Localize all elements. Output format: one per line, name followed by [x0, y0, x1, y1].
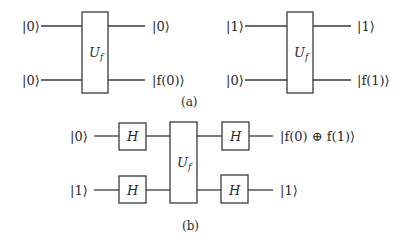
input-ket-bottom: |0⟩ — [22, 73, 40, 88]
circuit-a-right: |1⟩ |0⟩ Uf |1⟩ |f(1)⟩ — [226, 12, 390, 93]
output-ket-bottom: |1⟩ — [280, 183, 298, 198]
output-ket-bottom: |f(1)⟩ — [357, 73, 390, 88]
input-ket-bottom: |0⟩ — [226, 73, 244, 88]
caption-b: (b) — [182, 219, 199, 233]
output-ket-top: |0⟩ — [152, 19, 170, 34]
hadamard-label: H — [229, 129, 242, 144]
circuit-a-left: |0⟩ |0⟩ Uf |0⟩ |f(0)⟩ — [22, 12, 185, 93]
hadamard-label: H — [126, 183, 139, 198]
circuit-b: |0⟩ |1⟩ H H Uf H H |f(0) ⊕ f(1)⟩ |1⟩ — [70, 122, 355, 203]
output-ket-bottom: |f(0)⟩ — [152, 73, 185, 88]
input-ket-top: |0⟩ — [70, 129, 88, 144]
quantum-circuit-figure: |0⟩ |0⟩ Uf |0⟩ |f(0)⟩ |1⟩ |0⟩ Uf |1⟩ |f(… — [0, 0, 401, 244]
output-ket-top: |f(0) ⊕ f(1)⟩ — [280, 129, 355, 144]
input-ket-bottom: |1⟩ — [70, 183, 88, 198]
caption-a: (a) — [181, 95, 198, 109]
hadamard-label: H — [126, 129, 139, 144]
hadamard-label: H — [228, 183, 241, 198]
input-ket-top: |1⟩ — [226, 19, 244, 34]
output-ket-top: |1⟩ — [357, 19, 375, 34]
input-ket-top: |0⟩ — [22, 19, 40, 34]
